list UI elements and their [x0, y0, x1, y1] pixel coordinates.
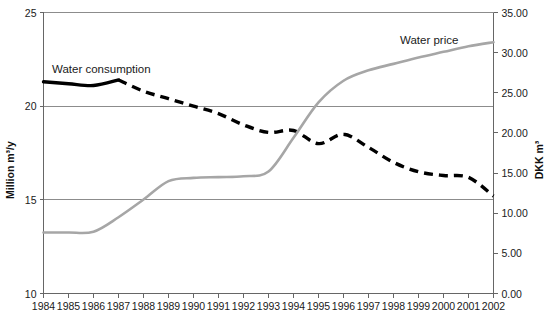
x-tick-label: 1984	[32, 300, 56, 312]
x-tick-label: 1987	[107, 300, 131, 312]
y-right-tick-label: 5.00	[502, 247, 523, 259]
y-left-tick-label: 15	[25, 194, 37, 206]
x-tick-label: 2001	[457, 300, 481, 312]
y-right-tick-marks	[494, 13, 498, 294]
x-tick-label: 2002	[482, 300, 506, 312]
x-tick-label: 1991	[207, 300, 231, 312]
x-tick-label: 1999	[407, 300, 431, 312]
y-axis-left-title: Million m³/y	[4, 141, 16, 199]
x-tick-label: 1989	[157, 300, 181, 312]
x-tick-label: 1986	[82, 300, 106, 312]
y-right-tick-label: 35.00	[502, 7, 528, 19]
x-tick-label: 1994	[282, 300, 306, 312]
x-tick-marks	[44, 294, 494, 298]
x-tick-label: 1993	[257, 300, 281, 312]
annotation-label-water-consumption: Water consumption	[52, 63, 151, 75]
line-chart: 1984198519861987198819891990199119921993…	[0, 0, 554, 332]
series-annotations: Water consumptionWater price	[52, 34, 458, 75]
x-tick-label: 1996	[332, 300, 356, 312]
y-left-tick-label: 10	[25, 288, 37, 300]
y-right-tick-label: 30.00	[502, 47, 528, 59]
x-axis-tick-labels: 1984198519861987198819891990199119921993…	[32, 300, 506, 312]
y-left-tick-marks	[40, 13, 44, 294]
y-right-tick-label: 20.00	[502, 127, 528, 139]
y-axis-right-title: DKK m³	[533, 140, 545, 179]
annotation-label-water-price: Water price	[400, 34, 458, 46]
x-tick-label: 1997	[357, 300, 381, 312]
series-line-water-consumption-solid	[44, 80, 119, 86]
y-left-tick-label: 25	[25, 7, 37, 19]
y-right-axis-tick-labels: 35.0030.0025.0020.0015.0010.005.000.00	[502, 7, 528, 300]
y-right-tick-label: 10.00	[502, 207, 528, 219]
y-left-axis-tick-labels: 25201510	[25, 7, 37, 300]
x-tick-label: 1998	[382, 300, 406, 312]
x-tick-label: 1985	[57, 300, 81, 312]
y-right-tick-label: 0.00	[502, 288, 523, 300]
x-tick-label: 2000	[432, 300, 456, 312]
x-tick-label: 1992	[232, 300, 256, 312]
y-right-tick-label: 15.00	[502, 167, 528, 179]
y-right-tick-label: 25.00	[502, 87, 528, 99]
x-tick-label: 1995	[307, 300, 331, 312]
x-tick-label: 1990	[182, 300, 206, 312]
x-tick-label: 1988	[132, 300, 156, 312]
chart-container: 1984198519861987198819891990199119921993…	[0, 0, 554, 332]
y-left-tick-label: 20	[25, 100, 37, 112]
